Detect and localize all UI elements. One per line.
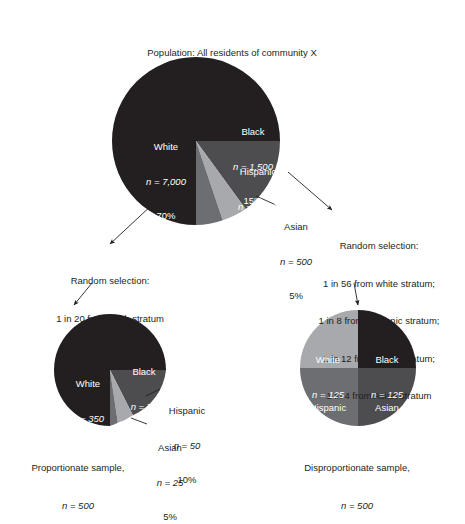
proportionate-label-white-n: n = 350: [72, 413, 104, 425]
disproportionate-caption: Disproportionate sample, n = 500: [304, 437, 410, 524]
population-label-asian-n: n = 500: [280, 256, 312, 268]
disproportionate-label-asian-name: Asian: [371, 402, 403, 414]
disproportionate-caption-line2: n = 500: [304, 500, 410, 513]
right-annotation-line1: Random selection:: [319, 240, 440, 253]
population-label-asian: Asian n = 500 5%: [280, 198, 312, 325]
right-annotation-line2: 1 in 56 from white stratum;: [319, 278, 440, 291]
population-label-black-name: Black: [233, 126, 273, 138]
left-annotation: Random selection: 1 in 20 from each stra…: [56, 250, 164, 350]
population-label-asian-pct: 5%: [280, 290, 312, 302]
proportionate-caption-line2: n = 500: [32, 500, 125, 513]
population-label-white-n: n = 7,000: [146, 176, 186, 188]
proportionate-label-white-name: White: [72, 378, 104, 390]
left-annotation-line1: Random selection:: [56, 275, 164, 288]
disproportionate-caption-line1: Disproportionate sample,: [304, 462, 410, 475]
proportionate-label-black-name: Black: [131, 366, 158, 378]
proportionate-caption-line1: Proportionate sample,: [32, 462, 125, 475]
population-label-hispanic: Hispanic n = 1,000 10%: [238, 143, 278, 270]
population-label-white-pct: 70%: [146, 210, 186, 222]
disproportionate-label-black-name: Black: [371, 354, 403, 366]
proportionate-label-asian-name: Asian: [157, 442, 184, 454]
proportionate-label-black-n: n = 75: [131, 401, 158, 413]
population-label-hispanic-n: n = 1,000: [238, 201, 278, 213]
right-annotation-line3: 1 in 8 from Hispanic stratum;: [319, 315, 440, 328]
proportionate-label-black: Black n = 75 15%: [131, 343, 158, 470]
population-label-hispanic-pct: 10%: [238, 235, 278, 247]
proportionate-label-hispanic-name: Hispanic: [169, 405, 205, 417]
disproportionate-label-hispanic-name: Hispanic: [310, 402, 346, 414]
proportionate-label-asian-pct: 5%: [157, 511, 184, 523]
proportionate-label-black-pct: 15%: [131, 435, 158, 447]
population-label-white: White n = 7,000 70%: [146, 118, 186, 245]
proportionate-label-asian: Asian n = 25 5%: [157, 419, 184, 524]
proportionate-label-asian-n: n = 25: [157, 477, 184, 489]
proportionate-caption: Proportionate sample, n = 500: [32, 437, 125, 524]
population-label-asian-name: Asian: [280, 221, 312, 233]
population-label-hispanic-name: Hispanic: [238, 166, 278, 178]
disproportionate-label-white-name: White: [312, 354, 344, 366]
left-annotation-line2: 1 in 20 from each stratum: [56, 313, 164, 326]
population-label-white-name: White: [146, 141, 186, 153]
